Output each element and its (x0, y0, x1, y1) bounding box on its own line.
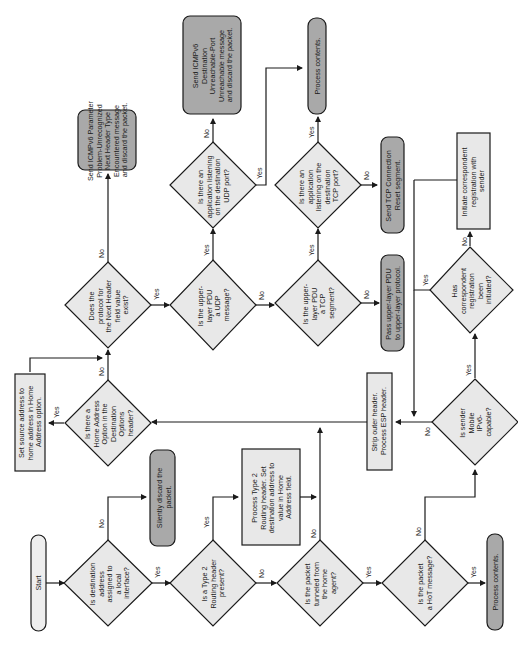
label-d4-yes: Yes (470, 566, 477, 578)
svg-text:Process contents.: Process contents. (313, 37, 322, 94)
svg-text:Is the packet a HoT mess: Is the packet a HoT message? (416, 556, 434, 611)
label-d6-no: No (461, 237, 468, 246)
label-d11-no: No (363, 171, 370, 180)
label-d9-yes: Yes (153, 288, 160, 300)
label-d9-no: No (98, 249, 105, 258)
label-d8-yes: Yes (203, 244, 210, 256)
decision-dest-local: Is destination address assigned to a loc… (64, 540, 152, 626)
svg-text:Is the upper- layer PDU: Is the upper- layer PDU a UDP message? (196, 284, 231, 326)
initiate-corr-registration-box: Initiate correspondent registration with… (457, 133, 490, 229)
label-d4-no: No (415, 527, 422, 536)
start-terminal: Start (31, 535, 46, 631)
flowchart: Start Is destination address assigned to… (0, 0, 518, 652)
label-d5-no: No (424, 427, 431, 436)
start-label: Start (34, 575, 43, 590)
label-d11-yes: Yes (308, 126, 315, 138)
silently-discard-terminal: Silently discard the packet. (150, 450, 175, 546)
decision-sender-mipv6: Is sender Mobile IPv6- capable? (432, 379, 518, 465)
icmp-parameter-problem-terminal: Send ICMPv6 Parameter Problem-Unrecogniz… (78, 99, 136, 181)
pass-upper-layer-terminal: Pass upper-layer PDU to upper-layer prot… (381, 255, 404, 351)
svg-text:Process contents.: Process contents. (491, 553, 500, 610)
svg-text:Send ICMPv6 Parameter Pr: Send ICMPv6 Parameter Problem-Unrecogniz… (86, 99, 129, 181)
label-d7-no: No (363, 290, 370, 299)
label-d2-no: No (258, 569, 265, 578)
label-d10-no: No (203, 129, 210, 138)
label-d3-no: No (310, 529, 317, 538)
decision-type2-routing: Is a Type 2 Routing header present? (170, 540, 256, 626)
label-d12-no: No (98, 367, 105, 376)
process-type2-box: Process Type 2 Routing header. Set desti… (242, 449, 300, 545)
decision-tcp-segment: Is the upper- layer PDU a TCP segment? (275, 260, 361, 346)
decision-udp-message: Is the upper- layer PDU a UDP message? (170, 260, 256, 350)
label-d6-yes: Yes (422, 274, 429, 286)
process-contents-top-terminal: Process contents. (308, 18, 326, 114)
label-d12-yes: Yes (53, 406, 60, 418)
decision-tunneled: Is the packet tunneled from the home age… (277, 540, 363, 626)
label-d5-yes: Yes (465, 364, 472, 376)
decision-udp-port-listening: Is there an application listening on the… (170, 142, 256, 228)
label-d1-yes: Yes (154, 566, 161, 578)
decision-corr-registration: Has correspondent registration been init… (430, 247, 513, 333)
decision-home-address-option: Is there a Home Address Option in the De… (65, 380, 151, 466)
icmp-destination-unreachable-terminal: Send ICMPv6 Destination Unreachable-Port… (183, 16, 241, 114)
decision-hot-message: Is the packet a HoT message? (382, 540, 468, 626)
svg-text:Strip outer header. Proc: Strip outer header. Process ESP header. (370, 387, 388, 455)
decision-tcp-port-listening: Is there an application listening on the… (275, 142, 361, 228)
svg-text:Is destination address: Is destination address assigned to a loc… (88, 561, 131, 605)
svg-text:Is sender Mobile I: Is sender Mobile IPv6- capable? (458, 406, 493, 438)
svg-text:Is the upper- layer PDU: Is the upper- layer PDU a TCP segment? (301, 282, 336, 324)
label-d7-yes: Yes (308, 244, 315, 256)
decision-next-header-protocol: Does the protocol for the Next Header fi… (65, 262, 151, 348)
strip-outer-header-box: Strip outer header. Process ESP header. (367, 373, 392, 470)
label-d3-yes: Yes (365, 566, 372, 578)
set-source-address-box: Set source address to home address in Ho… (15, 374, 45, 471)
label-d10-yes: Yes (256, 167, 263, 179)
tcp-reset-terminal: Send TCP Connection Reset segment. (381, 137, 404, 233)
label-d2-yes: Yes (203, 516, 210, 528)
label-d8-no: No (258, 291, 265, 300)
label-d1-no: No (98, 519, 105, 528)
svg-text:Pass upper-layer PDU to: Pass upper-layer PDU to upper-layer prot… (384, 266, 402, 340)
process-contents-bottom-terminal: Process contents. (487, 534, 503, 630)
